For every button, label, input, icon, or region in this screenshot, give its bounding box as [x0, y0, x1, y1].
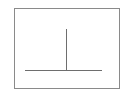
stem-line [66, 29, 67, 70]
diagram-frame [14, 8, 120, 89]
baseline-line [25, 70, 102, 71]
